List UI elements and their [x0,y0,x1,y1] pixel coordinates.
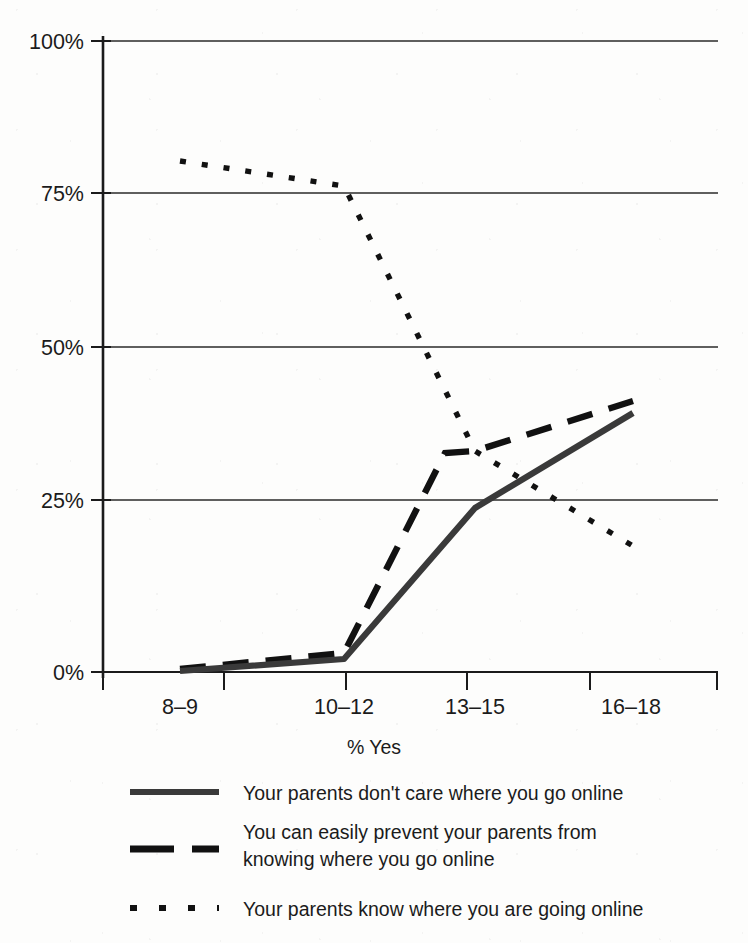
gridlines [103,41,718,500]
y-tick-label-25: 25% [41,489,84,513]
data-series-group [180,161,633,671]
x-tick-label-8-9: 8–9 [162,695,198,719]
x-tick-marks [103,672,717,690]
x-tick-labels: 8–9 10–12 13–15 16–18 [162,695,661,719]
chart-svg: 100% 75% 50% 25% 0% 8–9 10–12 13–15 16–1… [0,0,748,943]
legend-label-parents-dont-care: Your parents don't care where you go onl… [243,782,623,804]
line-chart-figure: 100% 75% 50% 25% 0% 8–9 10–12 13–15 16–1… [0,0,748,943]
legend-label-easily-prevent-line1: You can easily prevent your parents from [243,821,597,843]
series-line-easily-prevent [180,401,633,669]
x-tick-label-13-15: 13–15 [445,695,505,719]
series-line-parents-dont-care [180,413,633,671]
y-tick-marks [91,41,111,672]
y-tick-label-75: 75% [41,182,84,206]
x-tick-label-10-12: 10–12 [314,695,374,719]
legend-label-easily-prevent-line2: knowing where you go online [243,848,495,870]
chart-legend: Your parents don't care where you go onl… [130,782,643,920]
legend-label-parents-know: Your parents know where you are going on… [243,898,643,920]
y-tick-label-0: 0% [53,661,84,685]
y-tick-label-50: 50% [41,336,84,360]
x-axis-title: % Yes [347,736,401,758]
series-line-parents-know [180,161,633,546]
y-tick-label-100: 100% [29,30,84,54]
x-tick-label-16-18: 16–18 [601,695,661,719]
y-tick-labels: 100% 75% 50% 25% 0% [29,30,84,685]
